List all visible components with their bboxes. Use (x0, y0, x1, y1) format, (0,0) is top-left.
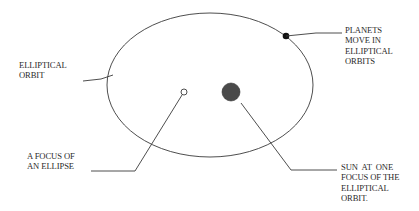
orbit-leader-line (83, 75, 113, 81)
planets-move-label: PLANETS MOVE IN ELLIPTICAL ORBITS (345, 25, 393, 66)
elliptical-orbit (107, 13, 313, 157)
kepler-orbit-diagram: ELLIPTICAL ORBIT PLANETS MOVE IN ELLIPTI… (0, 0, 419, 211)
focus-of-ellipse-label: A FOCUS OF AN ELLIPSE (27, 151, 75, 172)
empty-focus-point (181, 89, 187, 95)
sun-icon (222, 83, 240, 101)
planets-leader-line (286, 33, 342, 36)
focus-leader-line (91, 95, 182, 171)
sun-leader-line (241, 103, 337, 170)
sun-at-focus-label: SUN AT ONE FOCUS OF THE ELLIPTICAL ORBIT… (341, 162, 399, 203)
elliptical-orbit-label: ELLIPTICAL ORBIT (19, 60, 67, 81)
